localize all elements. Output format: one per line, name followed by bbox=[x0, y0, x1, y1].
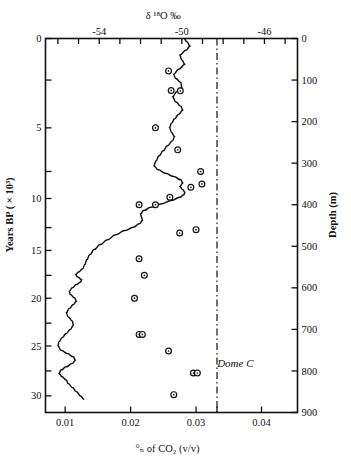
chart-svg: -54-50-46δ ¹⁸O ‰0.010.020.030.04°ₙ of CO… bbox=[0, 0, 351, 465]
figure-container: -54-50-46δ ¹⁸O ‰0.010.020.030.04°ₙ of CO… bbox=[0, 0, 351, 465]
bottom-axis-tick-label: 0.04 bbox=[252, 417, 271, 428]
co2-data-point-center bbox=[201, 183, 203, 185]
co2-data-point-center bbox=[197, 372, 199, 374]
co2-data-point-center bbox=[168, 70, 170, 72]
right-axis-tick-label: 500 bbox=[302, 241, 318, 252]
left-axis-tick-label: 15 bbox=[31, 245, 42, 256]
co2-data-point-center bbox=[138, 258, 140, 260]
top-axis-tick-label: -50 bbox=[175, 26, 189, 37]
bottom-axis-tick-label: 0.03 bbox=[187, 417, 205, 428]
right-axis-tick-label: 600 bbox=[302, 282, 318, 293]
right-axis-tick-label: 400 bbox=[302, 199, 318, 210]
co2-data-point-center bbox=[190, 186, 192, 188]
co2-data-point-center bbox=[179, 90, 181, 92]
right-axis-tick-label: 0 bbox=[302, 33, 307, 44]
annotation-dome-c: Dome C bbox=[216, 357, 254, 369]
co2-data-point-center bbox=[168, 350, 170, 352]
right-axis-tick-label: 200 bbox=[302, 116, 318, 127]
left-axis-title: Years BP ( × 10³) bbox=[4, 177, 16, 253]
top-axis-title: δ ¹⁸O ‰ bbox=[146, 10, 182, 21]
co2-data-point-center bbox=[138, 204, 140, 206]
right-axis-tick-label: 900 bbox=[302, 407, 318, 418]
co2-data-point-center bbox=[170, 90, 172, 92]
left-axis-tick-label: 5 bbox=[36, 122, 41, 133]
top-axis-tick-label: -46 bbox=[257, 26, 271, 37]
co2-data-point-center bbox=[173, 394, 175, 396]
right-axis-tick-label: 700 bbox=[302, 324, 318, 335]
right-axis-tick-label: 100 bbox=[302, 75, 318, 86]
right-axis-tick-label: 800 bbox=[302, 366, 318, 377]
right-axis-tick-label: 300 bbox=[302, 158, 318, 169]
co2-data-point-center bbox=[179, 232, 181, 234]
left-axis-tick-label: 10 bbox=[31, 193, 42, 204]
co2-data-point-center bbox=[155, 204, 157, 206]
left-axis-tick-label: 0 bbox=[36, 33, 41, 44]
co2-data-point-center bbox=[177, 149, 179, 151]
bottom-axis-title: °ₙ of CO₂ (v/v) bbox=[135, 443, 200, 455]
bottom-axis-tick-label: 0.01 bbox=[56, 417, 74, 428]
co2-data-point-center bbox=[155, 127, 157, 129]
co2-data-point-center bbox=[142, 334, 144, 336]
left-axis-tick-label: 20 bbox=[31, 293, 42, 304]
top-axis-tick-label: -54 bbox=[92, 26, 107, 37]
plot-frame bbox=[46, 39, 298, 413]
bottom-axis-tick-label: 0.02 bbox=[121, 417, 139, 428]
left-axis-tick-label: 30 bbox=[31, 390, 42, 401]
left-axis-tick-label: 25 bbox=[31, 341, 42, 352]
right-axis-title: Depth (m) bbox=[327, 192, 339, 238]
co2-data-point-center bbox=[200, 171, 202, 173]
co2-data-point-center bbox=[169, 196, 171, 198]
co2-data-point-center bbox=[134, 297, 136, 299]
co2-data-point-center bbox=[195, 229, 197, 231]
co2-data-point-center bbox=[143, 275, 145, 277]
